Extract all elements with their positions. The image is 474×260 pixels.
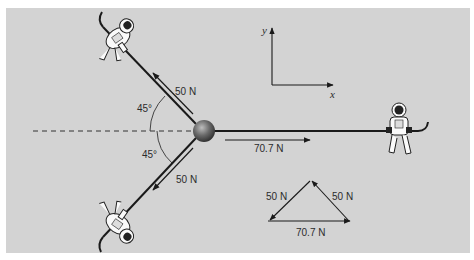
force-label-lower-left: 50 N bbox=[176, 174, 197, 185]
y-axis-label: y bbox=[261, 24, 267, 36]
astronaut-upper-left bbox=[89, 16, 147, 70]
angle-label-lower: 45° bbox=[142, 149, 157, 160]
tug-of-war-diagram: 50 N 45° 45° 50 N 70.7 N y x 50 N 50 N 7… bbox=[0, 0, 474, 260]
ball bbox=[193, 120, 215, 142]
triangle-label-right: 50 N bbox=[332, 191, 353, 202]
vector-triangle: 50 N 50 N 70.7 N bbox=[266, 181, 353, 238]
rope-tail-lower bbox=[99, 237, 103, 252]
rope-tail-right bbox=[418, 122, 428, 131]
astronaut-right bbox=[386, 103, 412, 154]
force-label-upper-left: 50 N bbox=[175, 86, 196, 97]
triangle-label-base: 70.7 N bbox=[296, 227, 325, 238]
angle-arc-upper bbox=[150, 96, 165, 131]
force-label-right: 70.7 N bbox=[254, 143, 283, 154]
x-axis-label: x bbox=[329, 88, 335, 100]
angle-label-upper: 45° bbox=[137, 103, 152, 114]
rope-tail-upper bbox=[100, 12, 103, 27]
xy-axes: y x bbox=[261, 24, 335, 100]
angle-arc-lower bbox=[157, 131, 172, 163]
triangle-label-left: 50 N bbox=[266, 191, 287, 202]
